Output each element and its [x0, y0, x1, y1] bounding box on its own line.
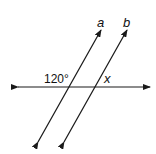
label-b: b: [123, 15, 130, 30]
diagram-canvas: a b 120° x: [0, 0, 156, 154]
line-a: [38, 30, 101, 142]
label-a: a: [97, 15, 104, 30]
line-b: [64, 30, 127, 142]
angle-label-x: x: [103, 71, 111, 86]
angle-label-120: 120°: [44, 72, 69, 86]
